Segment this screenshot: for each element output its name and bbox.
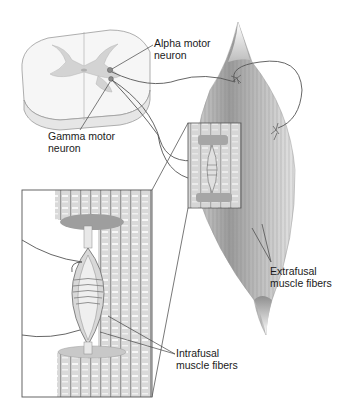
label-line: Intrafusal — [176, 347, 238, 359]
spindle-detail-small — [188, 123, 241, 208]
spindle-inset — [22, 190, 152, 397]
label-line: neuron — [154, 49, 211, 61]
diagram-canvas — [0, 0, 349, 418]
label-line: muscle fibers — [270, 277, 332, 289]
spinal-cord-cross-section — [22, 30, 150, 130]
label-line: Extrafusal — [270, 265, 332, 277]
label-gamma-motor-neuron: Gamma motor neuron — [48, 130, 115, 154]
label-alpha-motor-neuron: Alpha motor neuron — [154, 37, 211, 61]
label-line: Alpha motor — [154, 37, 211, 49]
alpha-neuron-body — [107, 67, 112, 72]
label-line: Gamma motor — [48, 130, 115, 142]
label-line: muscle fibers — [176, 359, 238, 371]
label-extrafusal-fibers: Extrafusal muscle fibers — [270, 265, 332, 289]
label-line: neuron — [48, 142, 115, 154]
label-intrafusal-fibers: Intrafusal muscle fibers — [176, 347, 238, 371]
